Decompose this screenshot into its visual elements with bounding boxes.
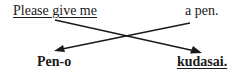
crossing-arrows (0, 0, 240, 75)
arrowhead-icon (190, 46, 202, 54)
arrow-a-pen-to-pen-o (54, 23, 190, 52)
arrowhead-icon (54, 45, 65, 52)
